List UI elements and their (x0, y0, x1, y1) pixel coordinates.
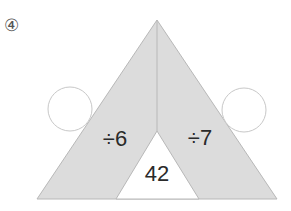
bottom-value-label: 42 (137, 161, 177, 187)
problem-number: ④ (4, 16, 19, 36)
right-answer-circle[interactable] (222, 88, 266, 132)
right-operation-label: ÷7 (180, 125, 220, 151)
left-answer-circle[interactable] (48, 87, 92, 131)
left-operation-label: ÷6 (95, 126, 135, 152)
